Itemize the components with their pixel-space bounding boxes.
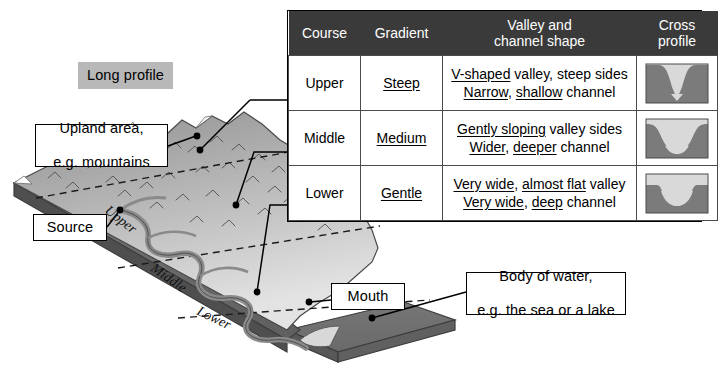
body-line1: Body of water, bbox=[477, 268, 615, 285]
cell-gradient: Gentle bbox=[361, 166, 443, 221]
cell-cross-profile bbox=[637, 56, 718, 111]
header-valley-channel-shape: Valley and channel shape bbox=[443, 11, 637, 56]
river-course-table: Course Gradient Valley and channel shape… bbox=[287, 10, 702, 222]
header-shape-line1: Valley and bbox=[507, 17, 571, 33]
long-profile-badge: Long profile bbox=[78, 62, 173, 89]
table-row: LowerGentleVery wide, almost flat valley… bbox=[289, 166, 718, 221]
body-line2: e.g. the sea or a lake bbox=[477, 302, 615, 319]
shape-line1: Very wide, almost flat valley bbox=[454, 176, 626, 192]
callout-source-text: Source bbox=[47, 219, 94, 236]
callout-body-text: Body of water, e.g. the sea or a lake bbox=[477, 268, 615, 319]
header-cross-line2: profile bbox=[658, 33, 696, 49]
header-gradient: Gradient bbox=[361, 11, 443, 56]
cell-course: Middle bbox=[289, 111, 361, 166]
table-header-row: Course Gradient Valley and channel shape… bbox=[289, 11, 718, 56]
cell-course: Lower bbox=[289, 166, 361, 221]
upland-line2: e.g. mountains bbox=[53, 154, 150, 171]
header-cross-profile: Cross profile bbox=[637, 11, 718, 56]
cell-cross-profile bbox=[637, 166, 718, 221]
cell-cross-profile bbox=[637, 111, 718, 166]
upland-line1: Upland area, bbox=[53, 120, 150, 137]
course-characteristics-table: Course Gradient Valley and channel shape… bbox=[288, 11, 718, 221]
header-course: Course bbox=[289, 11, 361, 56]
cell-gradient: Steep bbox=[361, 56, 443, 111]
cell-gradient: Medium bbox=[361, 111, 443, 166]
shape-line1: V-shaped valley, steep sides bbox=[451, 66, 627, 82]
table-body: UpperSteepV-shaped valley, steep sidesNa… bbox=[289, 56, 718, 221]
shape-line2: Narrow, shallow channel bbox=[464, 84, 616, 100]
callout-source: Source bbox=[33, 214, 107, 241]
header-shape-line2: channel shape bbox=[494, 33, 585, 49]
table-header: Course Gradient Valley and channel shape… bbox=[289, 11, 718, 56]
callout-upland-text: Upland area, e.g. mountains bbox=[53, 120, 150, 171]
callout-mouth: Mouth bbox=[331, 283, 405, 310]
long-profile-label: Long profile bbox=[87, 67, 164, 84]
header-cross-line1: Cross bbox=[659, 17, 696, 33]
shape-line1: Gently sloping valley sides bbox=[457, 121, 622, 137]
shape-line2: Wider, deeper channel bbox=[469, 139, 609, 155]
shape-line2: Very wide, deep channel bbox=[463, 194, 616, 210]
cell-valley-channel-shape: V-shaped valley, steep sidesNarrow, shal… bbox=[443, 56, 637, 111]
table-row: UpperSteepV-shaped valley, steep sidesNa… bbox=[289, 56, 718, 111]
callout-upland-area: Upland area, e.g. mountains bbox=[35, 124, 168, 167]
table-row: MiddleMediumGently sloping valley sidesW… bbox=[289, 111, 718, 166]
cell-valley-channel-shape: Gently sloping valley sidesWider, deeper… bbox=[443, 111, 637, 166]
cell-valley-channel-shape: Very wide, almost flat valleyVery wide, … bbox=[443, 166, 637, 221]
callout-body-of-water: Body of water, e.g. the sea or a lake bbox=[466, 272, 626, 315]
cell-course: Upper bbox=[289, 56, 361, 111]
callout-mouth-text: Mouth bbox=[348, 288, 389, 305]
